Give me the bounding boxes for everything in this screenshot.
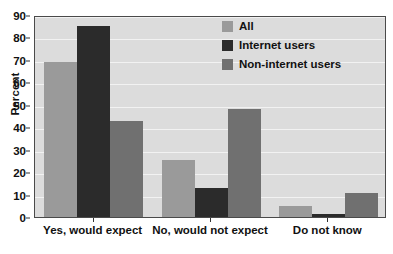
y-axis-tick-mark: [26, 150, 30, 151]
y-axis-tick-label: 90: [13, 10, 26, 22]
x-axis-tick-label: Do not know: [293, 224, 362, 236]
y-axis-tick-mark: [26, 128, 30, 129]
legend-swatch: [222, 21, 233, 32]
legend-item: Non-internet users: [222, 58, 341, 70]
y-axis-tick-label: 70: [13, 55, 26, 67]
legend-item: All: [222, 20, 341, 32]
x-axis-tick-mark: [327, 218, 328, 222]
bar: [345, 193, 378, 217]
bar: [279, 206, 312, 217]
y-axis-tick-label: 80: [13, 32, 26, 44]
y-axis-tick-mark: [26, 38, 30, 39]
y-axis-tick-mark: [26, 60, 30, 61]
legend-item: Internet users: [222, 39, 341, 51]
y-axis-tick-label: 40: [13, 122, 26, 134]
x-axis-tick-labels: Yes, would expectNo, would not expectDo …: [34, 224, 386, 248]
y-axis-tick-mark: [26, 173, 30, 174]
y-axis-tick-label: 10: [13, 190, 26, 202]
legend: AllInternet usersNon-internet users: [222, 20, 341, 70]
legend-label: All: [239, 20, 254, 32]
bar-chart: Percent 0102030405060708090 Yes, would e…: [0, 0, 393, 254]
y-axis-tick-label: 30: [13, 145, 26, 157]
y-axis-tick-mark: [26, 16, 30, 17]
legend-label: Internet users: [239, 39, 315, 51]
bar: [312, 214, 345, 217]
x-axis-tick-mark: [210, 218, 211, 222]
legend-label: Non-internet users: [239, 58, 341, 70]
legend-swatch: [222, 59, 233, 70]
bar: [110, 121, 143, 218]
y-axis-tick-label: 20: [13, 167, 26, 179]
x-axis-tick-marks: [34, 218, 386, 223]
y-axis-tick-label: 60: [13, 77, 26, 89]
x-axis-tick-mark: [93, 218, 94, 222]
bar: [77, 26, 110, 217]
y-axis-tick-mark: [26, 83, 30, 84]
bar: [228, 109, 261, 217]
bar: [195, 188, 228, 217]
bar: [44, 62, 77, 217]
x-axis-tick-label: No, would not expect: [152, 224, 268, 236]
y-axis-tick-mark: [26, 195, 30, 196]
y-axis-tick-labels: 0102030405060708090: [0, 16, 30, 218]
y-axis-tick-mark: [26, 218, 30, 219]
x-axis-tick-label: Yes, would expect: [43, 224, 142, 236]
bar: [162, 160, 195, 217]
y-axis-tick-label: 50: [13, 100, 26, 112]
y-axis-tick-mark: [26, 105, 30, 106]
legend-swatch: [222, 40, 233, 51]
